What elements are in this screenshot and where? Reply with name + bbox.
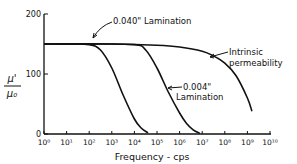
y-tick-label: 200 xyxy=(26,10,41,19)
y-ticks: 0100200 xyxy=(26,10,48,139)
annotation-004: 0.004" Lamination xyxy=(168,82,223,102)
series-curve-1 xyxy=(44,44,200,133)
x-tick-label: 10⁸ xyxy=(219,138,232,147)
permeability-frequency-chart: 0100200 10⁰10¹10²10³10⁴10⁵10⁶10⁷10⁸10⁹10… xyxy=(0,0,297,164)
annotation-004-line2: Lamination xyxy=(176,92,223,102)
annotation-040: 0.040" Lamination xyxy=(93,16,191,38)
y-label-numerator: μ' xyxy=(6,73,16,84)
data-curves xyxy=(44,44,252,133)
annotation-intrinsic: Intrinsic permeability xyxy=(210,47,283,68)
y-label-denominator: μ₀ xyxy=(6,88,17,99)
x-tick-label: 10¹ xyxy=(60,138,73,147)
x-tick-label: 10⁶ xyxy=(173,138,186,147)
x-axis-label: Frequency - cps xyxy=(115,151,190,162)
x-tick-label: 10⁰ xyxy=(38,138,51,147)
x-tick-label: 10⁷ xyxy=(196,138,209,147)
x-tick-label: 10¹⁰ xyxy=(262,138,278,147)
annotation-004-line1: 0.004" xyxy=(183,82,211,92)
y-tick-label: 100 xyxy=(26,70,41,79)
annotation-intrinsic-line1: Intrinsic xyxy=(229,47,263,57)
x-tick-label: 10³ xyxy=(106,138,119,147)
y-axis-label: μ' μ₀ xyxy=(4,73,21,99)
axes xyxy=(44,14,271,134)
x-tick-label: 10⁹ xyxy=(241,138,254,147)
series-curve-0 xyxy=(44,44,148,133)
x-tick-label: 10⁴ xyxy=(128,138,141,147)
x-tick-label: 10⁵ xyxy=(151,138,164,147)
x-tick-label: 10² xyxy=(83,138,96,147)
annotation-040-label: 0.040" Lamination xyxy=(113,16,191,26)
annotation-intrinsic-line2: permeability xyxy=(229,58,283,68)
